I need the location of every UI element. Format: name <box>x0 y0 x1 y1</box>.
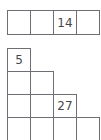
top-cell-3[interactable]: 14 <box>53 10 77 35</box>
top-cell-2[interactable] <box>30 10 54 35</box>
stair-cell-r2-c2[interactable] <box>30 71 54 95</box>
stair-cell-r4-c1[interactable] <box>7 117 31 140</box>
stair-cell-r2-c1[interactable] <box>7 71 31 95</box>
stair-cell-r3-c1[interactable] <box>7 94 31 118</box>
top-cell-1[interactable] <box>7 10 31 35</box>
stair-cell-r4-c3[interactable] <box>53 117 77 140</box>
stair-cell-r3-c2[interactable] <box>30 94 54 118</box>
top-cell-4[interactable] <box>76 10 100 35</box>
stair-cell-r3-c3[interactable]: 27 <box>53 94 77 118</box>
stair-cell-r4-c4[interactable] <box>76 117 100 140</box>
stair-cell-r1-c1[interactable]: 5 <box>7 48 31 72</box>
stair-cell-r4-c2[interactable] <box>30 117 54 140</box>
